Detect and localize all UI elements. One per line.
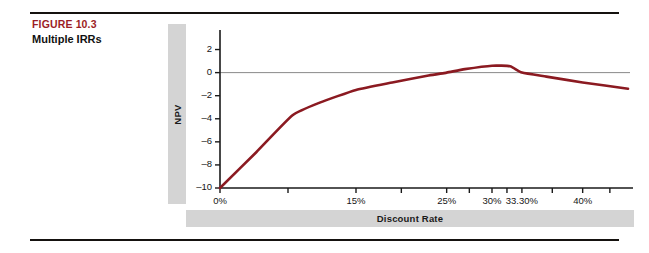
y-tick-label: –2 bbox=[186, 89, 212, 100]
figure-number: FIGURE 10.3 bbox=[32, 18, 172, 31]
top-rule bbox=[30, 12, 619, 14]
bottom-rule bbox=[30, 239, 619, 241]
figure-container: FIGURE 10.3 Multiple IRRs NPV Discount R… bbox=[0, 0, 649, 253]
y-tick-label: 2 bbox=[186, 43, 212, 54]
y-tick-label: –8 bbox=[186, 158, 212, 169]
plot-area: 20–2–4–6–8–10 0%15%25%30%33.30%40% bbox=[186, 24, 634, 210]
x-tick-label: 0% bbox=[190, 195, 250, 206]
y-tick-label: –10 bbox=[186, 181, 212, 192]
y-tick-label: 0 bbox=[186, 66, 212, 77]
figure-title: Multiple IRRs bbox=[32, 32, 172, 46]
chart: NPV Discount Rate 20–2–4–6–8–10 0%15%25%… bbox=[168, 24, 634, 228]
npv-curve-plot bbox=[186, 24, 634, 210]
figure-caption: FIGURE 10.3 Multiple IRRs bbox=[32, 18, 172, 46]
y-axis-label-text: NPV bbox=[172, 104, 183, 124]
x-tick-label: 33.30% bbox=[492, 195, 552, 206]
axes-group bbox=[220, 30, 633, 188]
y-tick-label: –4 bbox=[186, 112, 212, 123]
y-axis-label: NPV bbox=[168, 24, 186, 204]
x-axis-label: Discount Rate bbox=[186, 210, 634, 227]
y-tick-label: –6 bbox=[186, 135, 212, 146]
x-tick-label: 40% bbox=[553, 195, 613, 206]
npv-series-line bbox=[220, 66, 628, 188]
x-tick-label: 15% bbox=[326, 195, 386, 206]
